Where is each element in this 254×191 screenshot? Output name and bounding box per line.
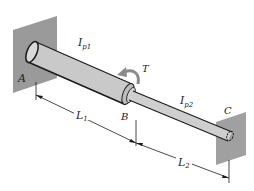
label-a: A bbox=[17, 72, 26, 85]
label-ip1: Ip1 bbox=[77, 36, 91, 51]
label-ip2: Ip2 bbox=[179, 94, 194, 109]
label-b: B bbox=[120, 111, 128, 122]
dimension-arrowheads bbox=[36, 95, 229, 178]
stepped-shaft-diagram: A B C T Ip1 Ip2 L1 L2 bbox=[0, 0, 254, 191]
right-support-wall bbox=[216, 112, 246, 165]
label-c: C bbox=[224, 105, 232, 116]
label-t: T bbox=[142, 63, 150, 74]
